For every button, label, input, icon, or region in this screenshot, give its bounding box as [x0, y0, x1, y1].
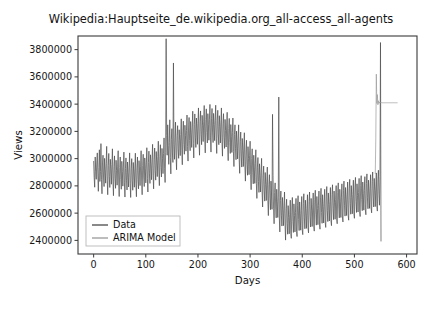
y-axis-tick-label: 3800000 — [29, 44, 72, 55]
y-axis-tick-label: 3600000 — [29, 71, 72, 82]
x-axis-tick-label: 400 — [293, 259, 311, 270]
y-axis-tick-label: 3000000 — [29, 153, 72, 164]
x-axis-tick-label: 100 — [137, 259, 155, 270]
y-axis-tick-label: 2800000 — [29, 180, 72, 191]
y-axis-tick-label: 2600000 — [29, 208, 72, 219]
axes-group: 2400000260000028000003000000320000034000… — [13, 36, 417, 286]
chart-plot: 2400000260000028000003000000320000034000… — [0, 0, 442, 309]
x-axis-title: Days — [235, 275, 260, 286]
x-axis-tick-label: 0 — [91, 259, 97, 270]
x-axis-tick-label: 300 — [241, 259, 259, 270]
x-axis-tick-label: 200 — [189, 259, 207, 270]
y-axis-tick-label: 3200000 — [29, 126, 72, 137]
figure-canvas: Wikipedia:Hauptseite_de.wikipedia.org_al… — [0, 0, 442, 309]
series-line-arima-model — [375, 74, 397, 173]
series-line-data — [94, 39, 381, 241]
x-axis-tick-label: 600 — [397, 259, 415, 270]
y-axis-tick-label: 2400000 — [29, 235, 72, 246]
y-axis-title: Views — [13, 130, 24, 159]
legend-label-data: Data — [113, 219, 136, 230]
legend-label-arima-model: ARIMA Model — [113, 232, 176, 243]
y-axis-tick-label: 3400000 — [29, 99, 72, 110]
x-axis-tick-label: 500 — [345, 259, 363, 270]
